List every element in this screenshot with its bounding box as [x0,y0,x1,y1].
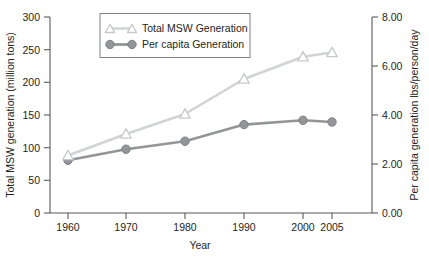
legend-label-total-msw: Total MSW Generation [142,22,248,34]
y2tick-0: 0.00 [382,207,403,219]
left-axis-ticks [44,17,50,213]
y2tick-8: 8.00 [382,11,403,23]
ytick-150: 150 [22,109,40,121]
xtick-1980: 1980 [173,221,197,233]
legend-marker-circle-icon [106,40,114,48]
xtick-2000: 2000 [291,221,315,233]
xtick-1960: 1960 [56,221,80,233]
ytick-250: 250 [22,44,40,56]
ytick-300: 300 [22,11,40,23]
msw-generation-line-chart: 0 50 100 150 200 250 300 0.00 2.00 4.00 … [0,0,429,264]
data-point-percap-2000 [299,116,307,124]
right-axis-tick-labels: 0.00 2.00 4.00 6.00 8.00 [382,11,403,219]
data-point-percap-1990 [240,120,248,128]
x-axis-title: Year [189,239,211,251]
data-point-percap-2005 [328,118,336,126]
xtick-1990: 1990 [232,221,256,233]
data-point-percap-1970 [122,145,130,153]
right-axis-ticks [372,17,378,213]
legend-label-per-capita: Per capita Generation [142,38,244,50]
ytick-0: 0 [34,207,40,219]
legend-box [100,14,250,58]
y2tick-2: 2.00 [382,158,403,170]
legend-marker-circle-icon-2 [128,40,136,48]
ytick-200: 200 [22,76,40,88]
ytick-100: 100 [22,142,40,154]
y2-axis-title: Per capita generation lbs/person/day [408,29,420,201]
legend: Total MSW Generation Per capita Generati… [100,14,250,58]
xtick-2005: 2005 [320,221,344,233]
y-axis-title: Total MSW generation (million tons) [4,32,16,198]
series-line-total-msw [68,53,332,156]
left-axis-tick-labels: 0 50 100 150 200 250 300 [22,11,40,219]
y2tick-6: 6.00 [382,60,403,72]
data-point-total-1980 [180,109,190,118]
chart-container: 0 50 100 150 200 250 300 0.00 2.00 4.00 … [0,0,429,264]
y2tick-4: 4.00 [382,109,403,121]
x-axis-tick-labels: 1960 1970 1980 1990 2000 2005 [56,221,344,233]
data-point-percap-1980 [181,137,189,145]
markers-per-capita [64,116,336,164]
ytick-50: 50 [28,174,40,186]
xtick-1970: 1970 [114,221,138,233]
x-axis-ticks [68,213,332,219]
